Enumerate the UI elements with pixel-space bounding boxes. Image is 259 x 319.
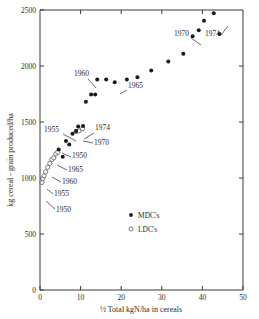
chart-legend: MDC's LDC's xyxy=(129,211,159,234)
data-point-ldc xyxy=(52,156,56,160)
data-point-mdc xyxy=(202,19,206,23)
x-tick-label: 30 xyxy=(158,293,166,302)
annotation-year-label: 1974 xyxy=(95,123,110,132)
data-point-mdc xyxy=(64,139,68,143)
legend-label-mdc: MDC's xyxy=(138,211,159,220)
annotation-leader-line xyxy=(83,141,93,143)
y-tick-label: 2500 xyxy=(21,6,36,15)
data-point-mdc xyxy=(104,77,108,81)
x-axis-ticks: 01020304050 xyxy=(38,286,247,302)
annotation-leader-line xyxy=(221,26,228,35)
annotation-year-label: 1970 xyxy=(174,29,189,38)
data-point-mdc xyxy=(181,52,185,56)
annotation-year-label: 1950 xyxy=(56,205,71,214)
year-annotations: 1955196019651970197419741970195019651960… xyxy=(44,26,228,214)
data-point-mdc xyxy=(212,11,216,15)
data-point-mdc xyxy=(76,124,80,128)
data-point-ldc xyxy=(40,180,44,184)
annotation-year-label: 1960 xyxy=(62,177,77,186)
legend-marker-ldc xyxy=(129,227,133,231)
data-point-mdc xyxy=(135,75,139,79)
data-point-ldc xyxy=(46,165,50,169)
data-point-mdc xyxy=(57,147,61,151)
annotation-leader-line xyxy=(52,177,61,182)
annotation-year-label: 1965 xyxy=(68,165,83,174)
x-axis-title: ½ Total kgN/ha in cereals xyxy=(100,305,182,314)
y-tick-label: 1500 xyxy=(21,118,36,127)
scatter-chart-figure: 01020304050 05001000150020002500 1955196… xyxy=(0,0,259,319)
y-tick-label: 1000 xyxy=(21,174,36,183)
annotation-leader-line xyxy=(46,201,55,209)
x-tick-label: 20 xyxy=(117,293,125,302)
annotation-leader-line xyxy=(47,189,53,194)
y-tick-label: 2000 xyxy=(21,62,36,71)
data-point-mdc xyxy=(67,142,71,146)
annotation-leader-line xyxy=(84,133,94,139)
plot-canvas: 01020304050 05001000150020002500 1955196… xyxy=(0,0,259,319)
legend-marker-mdc xyxy=(129,213,133,217)
data-point-mdc xyxy=(95,77,99,81)
y-axis-title: kg cereal - grain produced/ha xyxy=(6,113,15,207)
top-axis-ticks xyxy=(81,10,203,14)
annotation-year-label: 1960 xyxy=(74,69,89,78)
annotation-year-label: 1965 xyxy=(128,81,143,90)
annotation-year-label: 1970 xyxy=(94,138,109,147)
data-point-mdc xyxy=(191,34,195,38)
annotation-leader-line xyxy=(191,38,201,45)
y-axis-ticks: 05001000150020002500 xyxy=(21,6,44,295)
annotation-leader-line xyxy=(120,90,127,94)
data-point-mdc xyxy=(197,28,201,32)
data-point-mdc xyxy=(113,80,117,84)
annotation-year-label: 1950 xyxy=(72,151,87,160)
data-point-mdc xyxy=(149,68,153,72)
annotation-year-label: 1955 xyxy=(54,189,69,198)
x-tick-label: 0 xyxy=(38,293,42,302)
x-tick-label: 40 xyxy=(199,293,207,302)
data-point-mdc xyxy=(166,60,170,64)
x-tick-label: 50 xyxy=(239,293,247,302)
plot-frame xyxy=(40,10,243,290)
data-point-mdc xyxy=(89,93,93,97)
data-point-mdc xyxy=(93,93,97,97)
data-point-mdc xyxy=(81,124,85,128)
right-axis-ticks xyxy=(239,66,243,234)
data-point-mdc xyxy=(70,132,74,136)
annotation-year-label: 1955 xyxy=(44,125,59,134)
data-point-mdc xyxy=(84,100,88,104)
y-tick-label: 0 xyxy=(32,286,36,295)
data-point-ldc xyxy=(44,170,48,174)
data-point-mdc xyxy=(74,129,78,133)
annotation-leader-line xyxy=(88,79,96,88)
annotation-leader-line xyxy=(57,165,67,170)
data-point-ldc xyxy=(48,161,52,165)
data-point-mdc xyxy=(61,155,65,159)
y-tick-label: 500 xyxy=(25,230,37,239)
legend-label-ldc: LDC's xyxy=(138,225,157,234)
annotation-year-label: 1974 xyxy=(205,29,220,38)
x-tick-label: 10 xyxy=(77,293,85,302)
